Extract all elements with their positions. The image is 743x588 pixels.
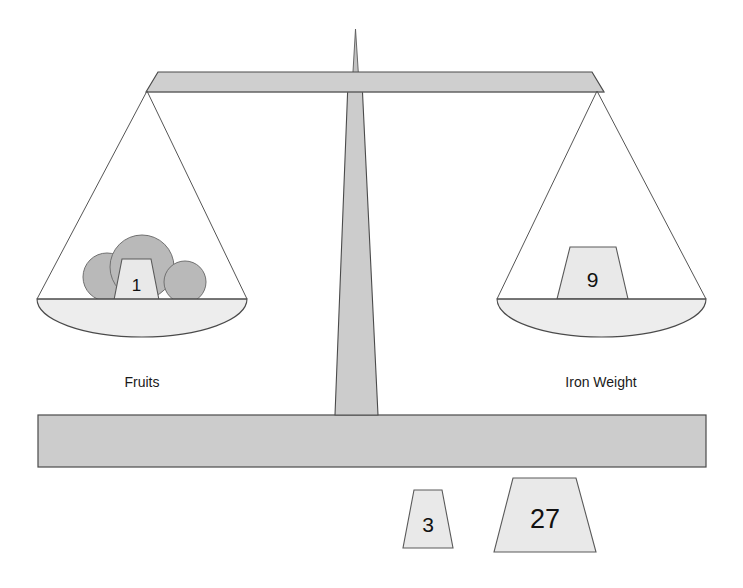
weight-on-fruit-pan-value: 1 xyxy=(132,276,141,295)
spare-weight-small-value: 3 xyxy=(422,513,434,536)
balance-beam xyxy=(146,72,604,92)
iron-weight-in-pan-value: 9 xyxy=(587,268,599,291)
spare-weight-large-value: 27 xyxy=(530,504,560,534)
right-pan-label: Iron Weight xyxy=(565,374,636,390)
left-pan-label: Fruits xyxy=(125,374,160,390)
base-plinth xyxy=(38,415,706,467)
support-column xyxy=(335,82,378,415)
scale-canvas: 1 9 Fruits Iron Weight 3 27 xyxy=(0,0,743,588)
right-pan-bowl xyxy=(497,299,706,337)
fruit-circle-right xyxy=(164,261,206,303)
balance-scale-illustration: 1 9 Fruits Iron Weight 3 27 xyxy=(0,0,743,588)
left-pan-bowl xyxy=(37,299,247,337)
